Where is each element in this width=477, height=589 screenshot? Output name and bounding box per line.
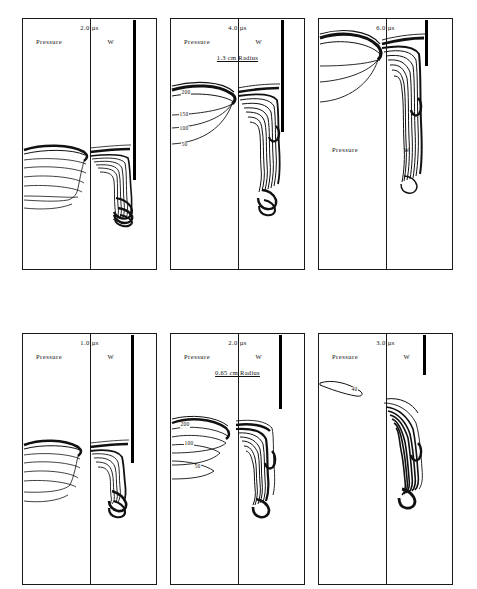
contour-plot: 200 150 100 50	[170, 18, 305, 270]
contour-plot: 40	[318, 333, 453, 585]
panel-2p0us-small: 2.0 µs Pressure W 0.65 cm Radius	[170, 333, 305, 585]
contour-label-100: 100	[184, 441, 194, 447]
contour-label-200: 200	[180, 422, 190, 428]
panel-4p0us: 4.0 µs Pressure W 1.3 cm Radius	[170, 18, 305, 270]
contour-plot	[22, 18, 157, 270]
contour-label-50: 50	[181, 142, 188, 148]
contour-label-50: 50	[194, 464, 201, 470]
contour-plot	[22, 333, 157, 585]
figure-row-top: 2.0 µs Pressure W	[0, 18, 477, 278]
contour-label-150: 150	[179, 112, 189, 118]
panel-3p0us: 3.0 µs Pressure W	[318, 333, 453, 585]
panel-2p0us: 2.0 µs Pressure W	[22, 18, 157, 270]
contour-plot: 200 100 50	[170, 333, 305, 585]
contour-label-200: 200	[181, 90, 191, 96]
contour-plot	[318, 18, 453, 270]
panel-1p0us: 1.0 µs Pressure W	[22, 333, 157, 585]
figure-row-bottom: 1.0 µs Pressure W	[0, 333, 477, 589]
panel-6p0us: 6.0 µs Pressure W	[318, 18, 453, 270]
contour-label-40: 40	[351, 387, 358, 393]
contour-label-100: 100	[179, 126, 189, 132]
